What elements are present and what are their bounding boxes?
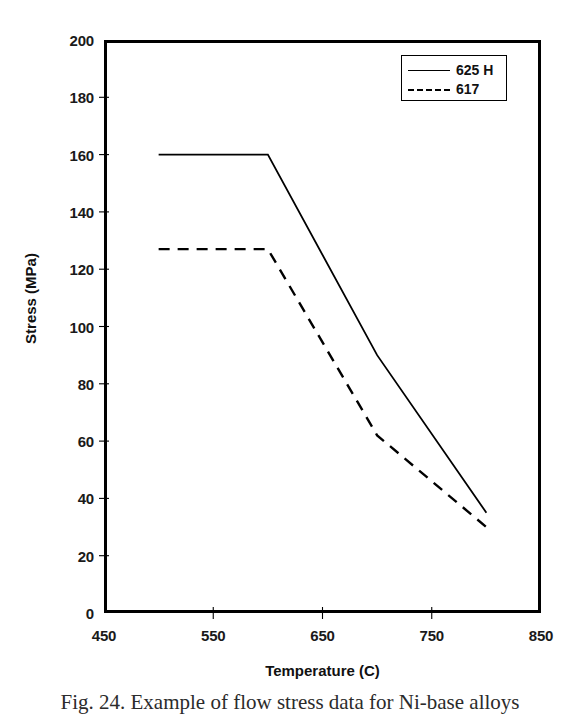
y-tick-label: 20 xyxy=(50,547,94,564)
x-tick-label: 750 xyxy=(420,627,444,644)
legend-swatch-solid-icon xyxy=(406,64,452,76)
plot-frame xyxy=(104,40,541,613)
chart-legend: 625 H 617 xyxy=(401,55,507,101)
x-tick-label: 550 xyxy=(201,627,225,644)
x-tick-label: 850 xyxy=(529,627,553,644)
y-tick-label: 140 xyxy=(50,203,94,220)
y-tick-label: 100 xyxy=(50,318,94,335)
y-tick-label: 200 xyxy=(50,32,94,49)
y-tick-label: 80 xyxy=(50,375,94,392)
legend-entry-625h: 625 H xyxy=(406,60,502,79)
y-axis-title: Stress (MPa) xyxy=(22,209,39,389)
legend-label-617: 617 xyxy=(452,81,479,97)
y-tick-label: 60 xyxy=(50,433,94,450)
y-tick-label: 120 xyxy=(50,261,94,278)
x-tick-label: 450 xyxy=(92,627,116,644)
legend-entry-617: 617 xyxy=(406,79,502,98)
y-tick-label: 40 xyxy=(50,490,94,507)
figure-caption: Fig. 24. Example of flow stress data for… xyxy=(0,690,580,715)
x-axis-title: Temperature (C) xyxy=(104,662,541,679)
y-tick-label: 0 xyxy=(50,605,94,622)
y-tick-label: 160 xyxy=(50,146,94,163)
x-tick-label: 650 xyxy=(310,627,334,644)
legend-label-625h: 625 H xyxy=(452,62,493,78)
legend-swatch-dashed-icon xyxy=(406,83,452,95)
y-tick-label: 180 xyxy=(50,89,94,106)
